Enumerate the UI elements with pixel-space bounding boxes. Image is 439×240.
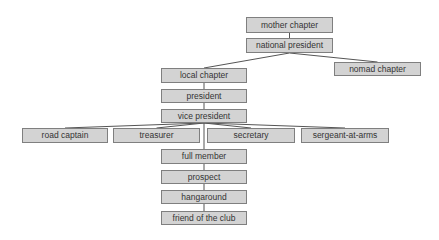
node-treasurer: treasurer xyxy=(113,128,200,143)
node-nomad-chapter: nomad chapter xyxy=(334,62,421,76)
node-vice-president: vice president xyxy=(161,109,247,123)
node-local-chapter: local chapter xyxy=(161,68,247,83)
node-president: president xyxy=(161,89,247,103)
node-sergeant-at-arms: sergeant-at-arms xyxy=(301,128,389,143)
node-prospect: prospect xyxy=(161,170,247,184)
node-road-captain: road captain xyxy=(22,128,108,143)
connector-national_president-local_chapter xyxy=(204,53,290,68)
node-mother-chapter: mother chapter xyxy=(246,17,333,33)
node-friend-of-the-club: friend of the club xyxy=(161,211,247,225)
connector-national_president-nomad_chapter xyxy=(290,53,378,62)
org-chart-diagram: mother chapter national president local … xyxy=(0,0,439,240)
node-hangaround: hangaround xyxy=(161,190,247,204)
node-full-member: full member xyxy=(161,149,247,164)
node-secretary: secretary xyxy=(207,128,295,143)
node-national-president: national president xyxy=(246,38,333,53)
